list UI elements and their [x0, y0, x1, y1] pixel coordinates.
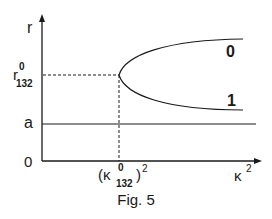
x-axis-arrow-icon — [254, 158, 262, 164]
origin-label: 0 — [24, 153, 32, 170]
x-tick-critical-close-sup: 2 — [142, 163, 148, 174]
y-axis-label: r — [27, 19, 33, 36]
x-axis-label-sup: 2 — [246, 163, 252, 174]
y-tick-critical-sub: 132 — [16, 78, 33, 89]
figure-caption: Fig. 5 — [117, 191, 155, 208]
branch-upper-label: 0 — [226, 43, 235, 60]
x-tick-critical-open: (κ — [98, 166, 111, 183]
y-tick-a: a — [24, 114, 33, 131]
bifurcation-diagram: r r 0 132 a 0 (κ 0 132 ) 2 κ 2 0 1 Fig. … — [0, 0, 272, 219]
y-tick-critical-sup: 0 — [19, 61, 25, 72]
branch-upper-curve — [119, 39, 243, 75]
x-axis-label-base: κ — [234, 167, 242, 184]
branch-lower-label: 1 — [227, 92, 236, 109]
x-tick-critical-sub: 132 — [116, 178, 133, 189]
branch-lower-curve — [119, 75, 243, 110]
y-axis-arrow-icon — [39, 14, 45, 22]
x-tick-critical-sup: 0 — [118, 162, 124, 173]
x-tick-critical-close: ) — [136, 166, 141, 183]
